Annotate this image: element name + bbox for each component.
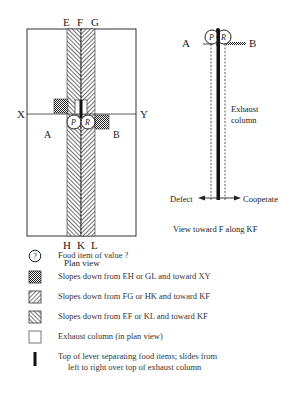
back-diagonal-swatch-icon — [28, 310, 42, 324]
legend-label-line1: Top of lever separating food items; slid… — [58, 351, 217, 362]
side-label-a: A — [182, 38, 190, 48]
slope-block-left — [54, 99, 68, 113]
svg-text:?: ? — [33, 252, 37, 261]
lever-bar — [80, 100, 83, 118]
food-item-r-label: R — [85, 118, 90, 128]
region-a: A — [44, 130, 51, 140]
side-view-caption: View toward F along KF — [173, 224, 257, 234]
side-food-item-p-label: P — [209, 33, 214, 43]
label-y: Y — [140, 109, 148, 119]
food-item-p-label: P — [71, 118, 76, 128]
label-x: X — [17, 109, 25, 119]
legend-item-exhaust-column: Exhaust column (in plan view) — [20, 330, 290, 346]
plan-view-diagram — [0, 0, 150, 270]
legend-item-food: ? Food item of value ? — [20, 249, 290, 265]
cooperate-label: Cooperate — [243, 194, 278, 204]
strip-ef-kl — [67, 29, 81, 236]
empty-box-icon — [28, 330, 42, 344]
legend-item-forward-diagonal: Slopes down from FG or HK and toward KF — [20, 290, 290, 306]
side-food-item-r-label: R — [221, 33, 226, 43]
legend-item-crosshatch: Slopes down from EH or GL and toward XY — [20, 270, 290, 286]
arrow-left-head — [198, 196, 205, 201]
legend-label-line2: left to right over top of exhaust column — [68, 362, 201, 373]
side-label-b: B — [249, 38, 256, 48]
legend-label: Slopes down from EH or GL and toward XY — [58, 271, 211, 282]
label-g: G — [91, 17, 99, 27]
strip-fg-hk — [81, 29, 95, 236]
slope-block-right — [95, 115, 109, 129]
exhaust-column-label-1: Exhaust — [231, 104, 258, 114]
label-e: E — [63, 17, 70, 27]
defect-label: Defect — [170, 194, 193, 204]
region-b: B — [113, 130, 120, 140]
legend-item-back-diagonal: Slopes down from EF or KL and toward KF — [20, 310, 290, 326]
legend-label: Slopes down from EF or KL and toward KF — [58, 311, 208, 322]
legend-item-lever: Top of lever separating food items; slid… — [20, 350, 290, 376]
exhaust-column-label-2: column — [231, 115, 257, 125]
lever-shaft — [217, 30, 221, 200]
legend-label: Food item of value ? — [58, 250, 128, 261]
label-f: F — [77, 17, 83, 27]
crosshatch-swatch-icon — [28, 270, 42, 284]
lever-bar-icon — [28, 352, 42, 366]
legend-label: Slopes down from FG or HK and toward KF — [58, 291, 210, 302]
legend-label: Exhaust column (in plan view) — [58, 331, 163, 342]
arrow-right-head — [234, 196, 241, 201]
food-item-icon: ? — [28, 249, 42, 263]
forward-diagonal-swatch-icon — [28, 290, 42, 304]
